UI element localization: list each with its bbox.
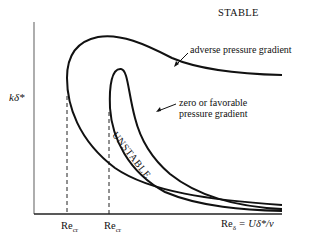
re-sub: cr [116,226,121,234]
x-label-rest: = Uδ*/ν [236,218,274,229]
x-label-base: Re [221,218,233,229]
favorable-label-line2: pressure gradient [179,108,248,119]
adverse-curve-label: adverse pressure gradient [190,45,292,55]
re-base: Re [61,220,73,231]
favorable-neutral-curve [110,69,282,211]
re-sub: cr [73,226,78,234]
favorable-label-line1: zero or favorable [179,97,248,108]
adverse-arrowhead-icon [174,61,179,67]
re-base: Re [104,220,116,231]
adverse-neutral-curve [67,36,282,205]
critical-re-label-adverse: Recr [61,221,78,234]
y-axis-label: kδ* [9,92,25,103]
x-axis-label: Reδ = Uδ*/ν [221,219,274,232]
favorable-curve-label: zero or favorable pressure gradient [179,97,248,119]
stable-region-label: STABLE [218,8,259,19]
favorable-arrowhead-icon [156,107,161,112]
stability-diagram [0,0,317,242]
critical-re-label-favorable: Recr [104,221,121,234]
